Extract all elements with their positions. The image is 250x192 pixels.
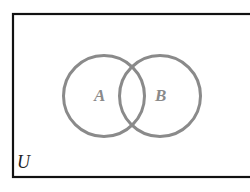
venn-diagram <box>0 0 250 192</box>
universe-rectangle <box>13 14 250 177</box>
universe-label: U <box>17 153 30 171</box>
set-b-label: B <box>155 87 166 104</box>
set-a-label: A <box>94 87 105 104</box>
